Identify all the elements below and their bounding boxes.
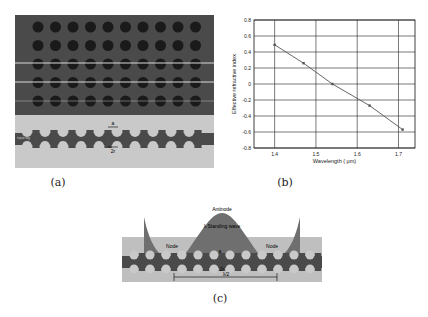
svg-text:1.4: 1.4: [271, 151, 278, 157]
label-input-wg: input wg: [17, 136, 30, 140]
svg-text:-0.8: -0.8: [242, 145, 251, 151]
caption-c: (c): [200, 292, 240, 305]
label-node-left: Node: [166, 243, 178, 249]
photonic-crystal-illustration: a 2r input wg: [15, 15, 214, 168]
line-chart: 0.80.60.40.20-0.2-0.4-0.6-0.81.41.51.61.…: [230, 10, 428, 180]
caption-a: (a): [38, 176, 78, 189]
label-standing-wave: λ Standing wave: [204, 223, 241, 229]
svg-text:-0.4: -0.4: [242, 113, 251, 119]
label-node-right: Node: [266, 243, 278, 249]
svg-text:1.7: 1.7: [395, 151, 402, 157]
svg-text:Wavelength ( μm): Wavelength ( μm): [313, 158, 356, 164]
standing-wave-illustration: Antinode λ Standing wave Node Node a 2r …: [122, 195, 322, 290]
svg-text:1.5: 1.5: [312, 151, 319, 157]
svg-text:-0.6: -0.6: [242, 129, 251, 135]
label-a: a: [112, 120, 115, 126]
label-a-c: a: [219, 248, 222, 254]
svg-text:0.4: 0.4: [244, 49, 251, 55]
svg-text:0.2: 0.2: [244, 65, 251, 71]
svg-text:0: 0: [248, 81, 251, 87]
svg-text:0.8: 0.8: [244, 17, 251, 23]
panel-b-chart: 0.80.60.40.20-0.2-0.4-0.6-0.81.41.51.61.…: [230, 10, 428, 180]
label-half-lambda: λ/2: [223, 271, 230, 277]
label-2r: 2r: [111, 148, 116, 154]
svg-text:Effective refractive index: Effective refractive index: [231, 54, 237, 114]
label-antinode: Antinode: [212, 206, 232, 212]
panel-c: Antinode λ Standing wave Node Node a 2r …: [122, 195, 322, 290]
svg-text:-0.2: -0.2: [242, 97, 251, 103]
svg-text:1.6: 1.6: [354, 151, 361, 157]
svg-text:0.6: 0.6: [244, 33, 251, 39]
panel-a: a 2r input wg: [15, 15, 214, 168]
caption-b: (b): [265, 176, 305, 189]
